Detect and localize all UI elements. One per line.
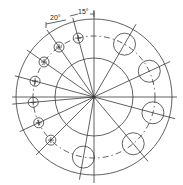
small-hole-center-mark bbox=[30, 99, 36, 105]
dimension-line-20deg bbox=[46, 20, 66, 28]
small-hole-center-mark bbox=[56, 44, 62, 50]
small-hole-center-mark bbox=[32, 78, 38, 84]
dimension-label-15deg: 15° bbox=[78, 8, 89, 15]
flange-drawing: 20° 15° bbox=[0, 0, 183, 185]
small-hole-center-mark bbox=[41, 59, 47, 65]
radial-line bbox=[94, 62, 170, 97]
radial-line bbox=[94, 24, 136, 97]
radial-line bbox=[27, 50, 94, 97]
small-hole-center-mark bbox=[75, 35, 81, 41]
small-hole-center-mark bbox=[36, 120, 42, 126]
radial-line bbox=[73, 18, 94, 97]
radial-line bbox=[47, 30, 94, 97]
dimension-label-20deg: 20° bbox=[50, 14, 61, 21]
radial-line bbox=[15, 76, 94, 97]
